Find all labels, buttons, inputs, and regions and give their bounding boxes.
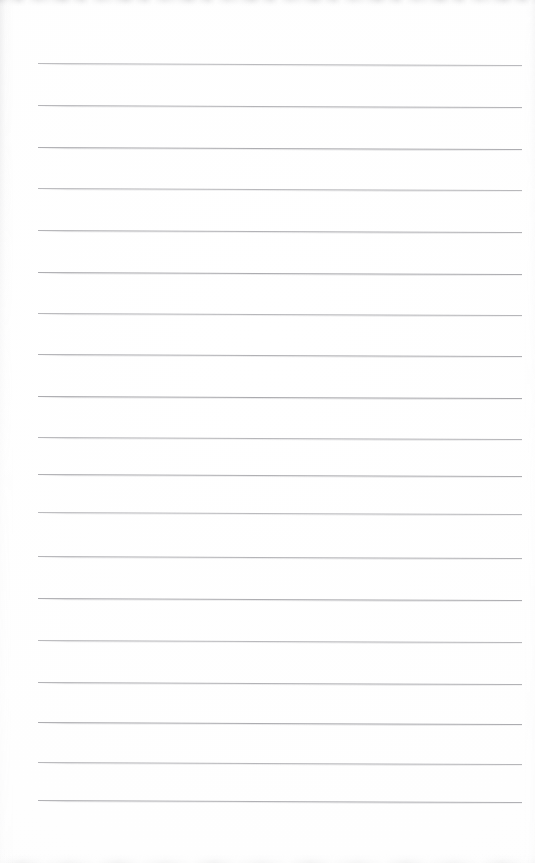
rule-line <box>38 512 522 515</box>
rule-line <box>38 230 522 233</box>
rule-line <box>38 188 522 191</box>
rule-line <box>38 640 522 643</box>
rule-line <box>38 105 522 108</box>
rule-line <box>38 437 522 440</box>
bottom-edge-scan-band <box>0 854 535 863</box>
rule-line <box>38 354 522 357</box>
rule-line <box>38 722 522 725</box>
rule-line <box>38 474 522 477</box>
rule-line <box>38 556 522 559</box>
top-edge-scan-band <box>0 0 535 7</box>
rule-line <box>38 147 522 150</box>
rule-line <box>38 598 522 601</box>
left-edge-scan-band <box>0 0 13 863</box>
rule-line <box>38 762 522 765</box>
ruled-lines-group <box>0 0 535 863</box>
rule-line <box>38 682 522 685</box>
rule-line <box>38 800 522 803</box>
rule-line <box>38 313 522 316</box>
right-edge-scan-band <box>525 0 535 863</box>
rule-line <box>38 396 522 399</box>
rule-line <box>38 272 522 275</box>
rule-line <box>38 63 522 66</box>
scanned-page <box>0 0 535 863</box>
